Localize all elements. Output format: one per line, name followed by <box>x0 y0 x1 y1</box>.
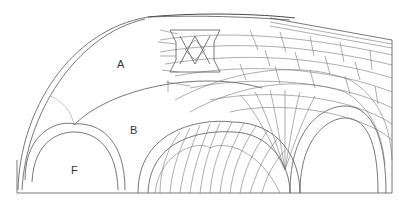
cornice-2 <box>148 16 290 20</box>
label-a: A <box>117 58 124 70</box>
arch-middle-inner <box>148 132 290 193</box>
arch-right-inner <box>300 118 378 193</box>
label-f: F <box>71 164 78 176</box>
label-b: B <box>130 124 137 136</box>
voussoir-band <box>175 70 392 165</box>
arch-f-inner <box>32 132 118 190</box>
ornament-monogram <box>170 30 220 72</box>
arch-middle-wave <box>155 145 280 193</box>
roofline-2 <box>270 22 392 44</box>
outer-arch-1 <box>18 17 148 190</box>
vault-drawing <box>0 0 409 204</box>
construction-arc <box>50 96 74 125</box>
arch-f-outer <box>25 123 125 190</box>
outer-arch-2 <box>22 19 145 190</box>
fan-ribs <box>160 122 285 193</box>
